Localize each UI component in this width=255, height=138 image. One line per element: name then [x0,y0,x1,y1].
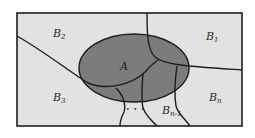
set-a-ellipse [79,34,189,102]
label-set-a: A [119,60,128,73]
partition-diagram: B2 B1 B3 Bn Bn-1 A • • • [0,0,255,138]
ellipsis-dots: • • • [126,105,145,112]
